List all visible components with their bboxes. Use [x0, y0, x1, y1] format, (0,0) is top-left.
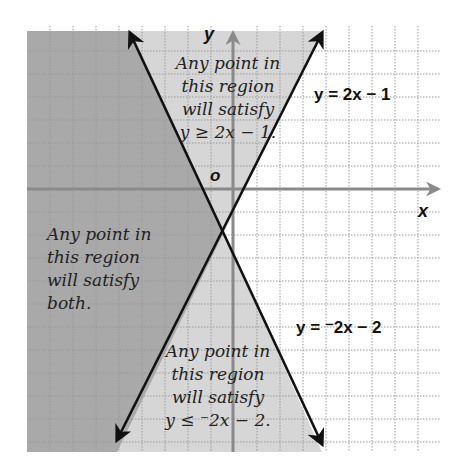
top-note-line: Any point in: [160, 52, 296, 75]
origin-label: o: [210, 166, 220, 186]
x-axis-label: x: [418, 201, 428, 222]
left-note-line: this region: [47, 246, 151, 269]
top-note-line: y ≥ 2x − 1.: [160, 121, 296, 144]
top-region-note: Any point in this region will satisfy y …: [160, 52, 296, 144]
bottom-note-line: this region: [150, 363, 286, 386]
left-note-line: Any point in: [47, 223, 151, 246]
bottom-note-line: y ≤ ⁻2x − 2.: [150, 409, 286, 432]
left-note-line: both.: [47, 292, 151, 315]
y-axis-label: y: [204, 24, 214, 45]
left-region-note: Any point in this region will satisfy bo…: [47, 223, 151, 315]
bottom-note-line: Any point in: [150, 340, 286, 363]
bottom-note-line: will satisfy: [150, 386, 286, 409]
equation-label-2: y = ⁻2x − 2: [296, 317, 382, 338]
bottom-region-note: Any point in this region will satisfy y …: [150, 340, 286, 432]
left-note-line: will satisfy: [47, 269, 151, 292]
equation-label-1: y = 2x − 1: [314, 85, 391, 105]
top-note-line: will satisfy: [160, 98, 296, 121]
top-note-line: this region: [160, 75, 296, 98]
